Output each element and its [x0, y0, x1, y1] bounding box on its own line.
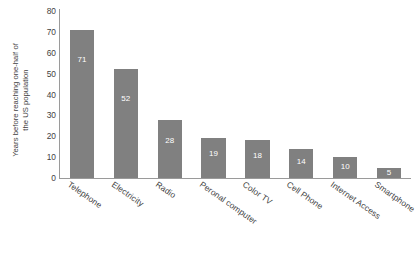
y-axis-tick: 0 — [34, 174, 56, 182]
y-axis-tick: 30 — [34, 111, 56, 119]
y-axis-title: Years before reaching one-half of the US… — [6, 10, 36, 190]
y-axis-tick: 20 — [34, 132, 56, 140]
bar-slot: 52 — [114, 11, 138, 178]
y-axis-tick: 10 — [34, 153, 56, 161]
bar[interactable]: 5 — [377, 168, 401, 178]
x-axis-tick: Cell Phone — [285, 180, 325, 211]
bar-value-label: 71 — [70, 56, 94, 64]
bar-slot: 28 — [158, 11, 182, 178]
bar-value-label: 28 — [158, 137, 182, 145]
bar[interactable]: 10 — [333, 157, 357, 178]
bar-slot: 18 — [245, 11, 269, 178]
bar[interactable]: 18 — [245, 140, 269, 178]
bar[interactable]: 19 — [201, 138, 225, 178]
bar-value-label: 52 — [114, 95, 138, 103]
bar-value-label: 14 — [289, 158, 313, 166]
x-axis-tick-labels: TelephoneElectricityRadioPeronal compute… — [60, 180, 411, 255]
y-axis-tick: 40 — [34, 90, 56, 98]
y-axis-tick: 50 — [34, 69, 56, 77]
bar-value-label: 19 — [201, 150, 225, 158]
x-axis-tick: Smartphone — [373, 180, 416, 214]
bar-slot: 71 — [70, 11, 94, 178]
x-axis-tick: Color TV — [241, 180, 274, 207]
bar-slot: 10 — [333, 11, 357, 178]
bar-slot: 5 — [377, 11, 401, 178]
plot-area: 715228191814105 — [60, 11, 411, 178]
bar-value-label: 10 — [333, 163, 357, 171]
y-axis-title-line-2: the US population — [21, 69, 32, 130]
bar-chart: Years before reaching one-half of the US… — [0, 0, 417, 255]
bar-slot: 19 — [201, 11, 225, 178]
y-axis-tick: 60 — [34, 49, 56, 57]
bar[interactable]: 28 — [158, 120, 182, 178]
x-axis-tick: Radio — [154, 180, 178, 200]
x-axis-line — [59, 178, 411, 179]
bar-value-label: 18 — [245, 152, 269, 160]
bar[interactable]: 52 — [114, 69, 138, 178]
x-axis-tick: Electricity — [110, 180, 145, 209]
y-axis-tick: 80 — [34, 7, 56, 15]
bar-value-label: 5 — [377, 169, 401, 177]
x-axis-tick: Telephone — [66, 180, 104, 210]
y-axis-tick: 70 — [34, 28, 56, 36]
y-axis-title-line-1: Years before reaching one-half of — [11, 43, 22, 157]
y-axis-tick-labels: 01020304050607080 — [34, 11, 56, 178]
bar[interactable]: 71 — [70, 30, 94, 178]
bar-slot: 14 — [289, 11, 313, 178]
bar[interactable]: 14 — [289, 149, 313, 178]
